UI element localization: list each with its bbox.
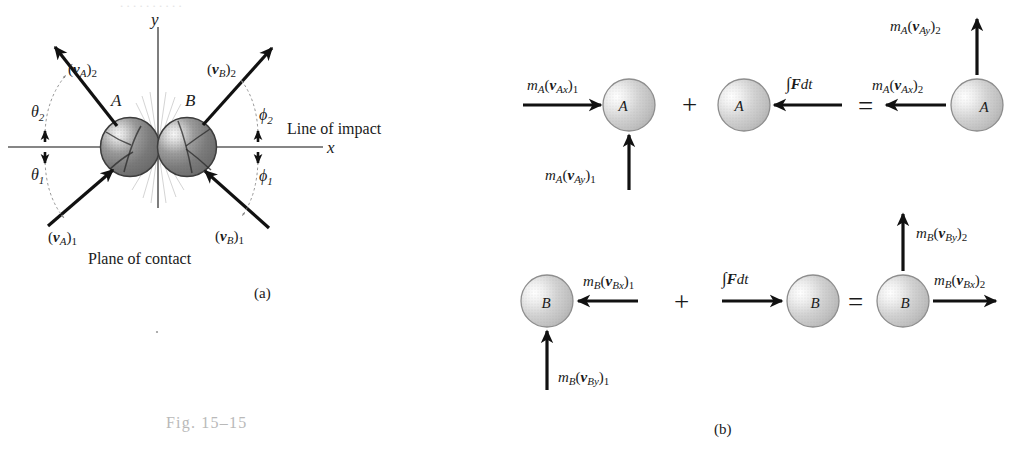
row-a-plus-operator: + [682,90,697,120]
row-a-sphere-1-label: A [617,98,628,114]
row-b-sphere-3-label: B [900,295,909,311]
angle-phi1-label: ϕ1 [259,167,273,187]
row-a-label-mvay1: mA(vAy)1 [545,167,596,185]
axis-y-label: y [149,10,159,29]
vector-vA2 [55,47,117,126]
vector-vA1 [48,170,113,226]
row-b-label-impulse: ∫Fdt [721,269,749,289]
row-b-label-mvbx1: mB(vBx)1 [583,273,634,291]
row-a-sphere-2: A [718,79,770,131]
sphere-b-label: B [185,91,196,110]
panel-b-row-b: B mB(vBx)1 mB(vBy)1 + ∫Fdt B = [521,214,996,438]
angle-phi2-label: ϕ2 [259,106,273,126]
sphere-b [158,118,217,177]
angle-theta2-arc [45,75,66,142]
angle-theta1-arc [45,152,64,218]
clipped-top-text: . . . . . . . . . . [120,0,182,10]
figure-canvas: . . . . . . . . . . [0,0,1017,463]
vector-vB2-label: (vB)2 [207,61,236,79]
row-a-sphere-1: A [603,79,655,131]
figure-caption-number: Fig. 15–15 [166,414,247,432]
row-b-equals-operator: = [848,287,863,317]
panel-a: y x A B (vA)2 [8,10,382,432]
row-b-sphere-1: B [521,275,573,327]
row-a-label-mvax2: mA(vAx)2 [872,77,923,95]
row-b-label-mvbx2: mB(vBx)2 [934,272,985,290]
row-a-label-mvay2: mA(vAy)2 [890,18,941,36]
scan-artifact-dot [156,331,158,333]
panel-b-row-a: A mA(vAx)1 mA(vAy)1 + A ∫Fdt = [523,18,1003,190]
row-b-plus-operator: + [674,287,689,317]
row-b-sphere-2: B [787,275,839,327]
vector-vA2-label: (vA)2 [68,61,97,79]
row-a-label-impulse: ∫Fdt [785,74,813,94]
row-a-sphere-2-label: A [733,98,744,114]
angle-phi2-arc [241,80,258,142]
sphere-a-label: A [110,91,122,110]
row-a-sphere-3-label: A [978,99,989,115]
row-b-label-mvby1: mB(vBy)1 [558,369,609,387]
figure-15-15: . . . . . . . . . . [0,0,1017,463]
line-of-impact-label: Line of impact [287,120,382,138]
angle-theta2-label: θ2 [31,103,45,123]
panel-b-label: (b) [714,421,732,438]
row-b-sphere-3: B [877,275,929,327]
vector-vB1-label: (vB)1 [215,228,244,246]
sphere-a [101,118,160,177]
row-a-label-mvax1: mA(vAx)1 [527,77,578,95]
row-b-label-mvby2: mB(vBy)2 [916,225,967,243]
row-b-sphere-1-label: B [541,295,550,311]
angle-theta1-label: θ1 [31,166,44,186]
plane-of-contact-label: Plane of contact [88,250,192,267]
axis-x-label: x [326,138,335,157]
row-b-sphere-2-label: B [810,295,819,311]
row-a-sphere-3: A [951,79,1003,131]
vector-vA1-label: (vA)1 [48,229,77,247]
row-a-equals-operator: = [858,91,873,121]
panel-a-label: (a) [254,285,271,302]
